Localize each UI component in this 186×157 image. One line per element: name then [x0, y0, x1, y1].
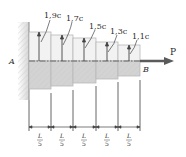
svg-text:L: L — [104, 132, 109, 139]
load-arrow — [140, 57, 174, 65]
load-label: P — [170, 47, 176, 57]
svg-text:L: L — [126, 132, 131, 139]
svg-text:5: 5 — [105, 140, 109, 147]
svg-text:L: L — [81, 132, 86, 139]
svg-text:5: 5 — [60, 140, 64, 147]
dimension-arrows — [29, 126, 140, 128]
free-end-label: B — [142, 65, 149, 74]
segment-5-label: 1,1c — [132, 32, 150, 41]
svg-text:5: 5 — [127, 140, 131, 147]
stepped-bar-diagram: 1,9c 1,7c 1,5c 1,3c 1,1c P A B L 5 L 5 L — [0, 0, 186, 157]
svg-text:5: 5 — [38, 140, 42, 147]
segment-1-label: 1,9c — [44, 11, 62, 20]
length-labels: L 5 L 5 L 5 L 5 L 5 — [37, 132, 132, 147]
segment-2-label: 1,7c — [66, 14, 84, 23]
segment-3-label: 1,5c — [89, 22, 107, 31]
svg-text:L: L — [59, 132, 64, 139]
svg-text:5: 5 — [82, 140, 86, 147]
wall-support — [18, 22, 29, 100]
segment-4-label: 1,3c — [110, 27, 128, 36]
support-label: A — [8, 57, 15, 66]
svg-text:L: L — [37, 132, 42, 139]
